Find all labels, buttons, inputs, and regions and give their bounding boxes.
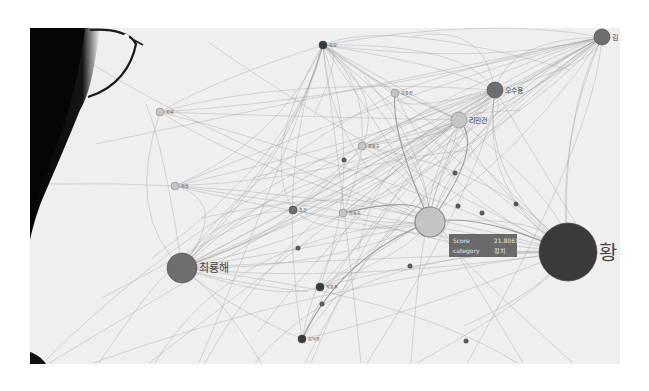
node-circle[interactable] [167, 253, 197, 283]
node-circle[interactable] [451, 112, 467, 128]
tooltip-key-score: Score [453, 237, 470, 244]
node-label: 박봉주 [326, 284, 338, 290]
node-label: 김 [612, 34, 618, 42]
faint-label: · [66, 196, 67, 201]
tooltip-value-score: 21.8061 [494, 237, 519, 244]
node-label: 최휘 [166, 109, 174, 115]
tooltip-key-category: category [453, 247, 480, 255]
node-circle[interactable] [319, 41, 327, 49]
node-label: 김덕훈 [308, 336, 320, 342]
node-circle[interactable] [339, 209, 347, 217]
node-label: 리용호 [349, 210, 361, 216]
node-circle[interactable] [487, 82, 503, 98]
graph-node-small[interactable] [480, 211, 485, 216]
node-circle[interactable] [298, 335, 306, 343]
node-circle[interactable] [594, 29, 610, 45]
graph-node-small[interactable] [408, 264, 413, 269]
node-label: 황 [599, 241, 617, 265]
node-label: 리철 [181, 183, 189, 189]
network-graph-photo: 황최룡해오수용리만건김김원리충진김용호조건리용호최휘리철김덕훈박봉주 Score… [0, 0, 649, 391]
graph-node-small[interactable] [456, 204, 461, 209]
node-label: 리충진 [401, 90, 413, 96]
node-circle[interactable] [171, 182, 179, 190]
node-circle[interactable] [358, 142, 366, 150]
node-circle[interactable] [316, 283, 324, 291]
tooltip-value-category: 정치 [494, 247, 506, 255]
node-circle[interactable] [391, 89, 399, 97]
graph-node-center[interactable] [415, 207, 445, 237]
graph-node-small[interactable] [514, 202, 519, 207]
node-circle[interactable] [415, 207, 445, 237]
node-label: 오수용 [505, 87, 524, 95]
node-label: 조건 [299, 207, 307, 213]
node-circle[interactable] [156, 108, 164, 116]
graph-node-small[interactable] [464, 339, 469, 344]
node-label: 김용호 [368, 143, 380, 149]
node-circle[interactable] [539, 223, 597, 281]
graph-node-small[interactable] [296, 246, 301, 251]
graph-node-small[interactable] [342, 158, 347, 163]
graph-node-small[interactable] [320, 302, 325, 307]
node-label: 최룡해 [199, 261, 229, 275]
graph-node-small[interactable] [453, 171, 458, 176]
node-label: 김원 [329, 42, 337, 48]
node-circle[interactable] [289, 206, 297, 214]
node-tooltip: Score 21.8061 category 정치 [449, 234, 519, 257]
glasses-reflection [123, 34, 129, 40]
node-label: 리만건 [469, 116, 487, 125]
